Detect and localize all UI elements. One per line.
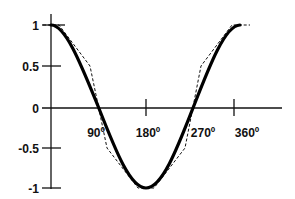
y-label-1: 1 bbox=[32, 19, 39, 33]
x-label-360: 360º bbox=[235, 126, 260, 140]
y-label-0: 0 bbox=[32, 102, 39, 116]
x-label-270: 270º bbox=[191, 126, 216, 140]
y-label-neg0.5: -0.5 bbox=[18, 142, 39, 156]
y-label-0.5: 0.5 bbox=[22, 60, 39, 74]
x-label-180: 180º bbox=[136, 126, 161, 140]
y-label-neg1: -1 bbox=[28, 182, 39, 196]
cosine-chart: 1 0.5 0 -0.5 -1 90º 180º 270º 360º bbox=[0, 0, 295, 199]
